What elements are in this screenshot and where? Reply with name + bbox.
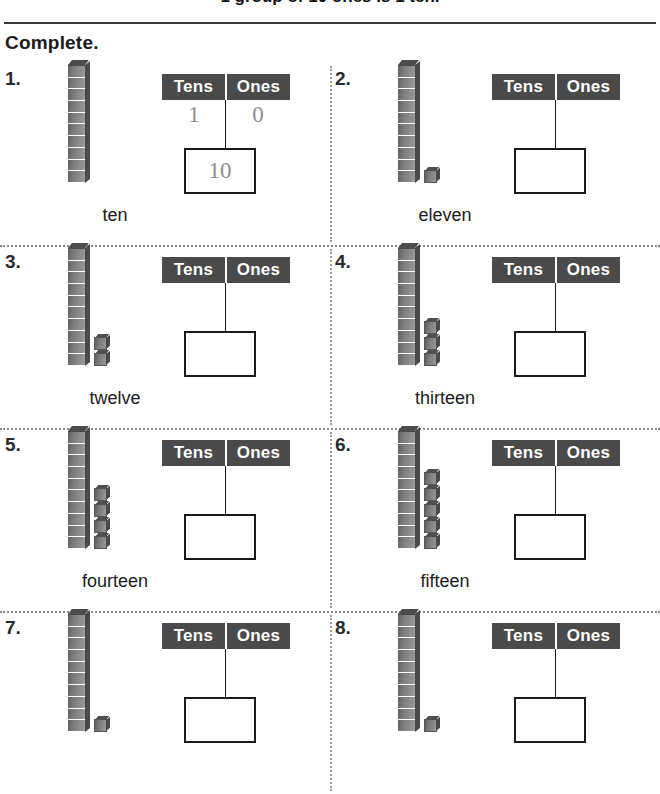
unit-cube-stack	[424, 321, 437, 366]
ones-header-label: Ones	[227, 257, 290, 283]
ten-rod-segment	[68, 627, 85, 639]
place-value-chart: TensOnes	[492, 623, 622, 649]
ten-rod-segment	[398, 101, 415, 113]
ten-rod-segment	[398, 627, 415, 639]
answer-box[interactable]: 10	[184, 148, 256, 194]
chart-column-divider	[225, 649, 226, 697]
place-value-chart: TensOnes	[492, 257, 622, 283]
ten-rod-segment	[68, 467, 85, 479]
unit-cube-stack	[424, 170, 437, 183]
ten-rod-segment	[398, 502, 415, 514]
ten-rod-segment	[68, 89, 85, 101]
unit-cube	[424, 504, 437, 517]
ten-rod	[68, 614, 85, 732]
digit-row: 10	[162, 102, 290, 128]
ten-rod-segment	[398, 650, 415, 662]
column-divider	[330, 615, 332, 791]
problem-number: 1.	[5, 68, 21, 90]
answer-box[interactable]	[184, 697, 256, 743]
ten-rod-segment	[68, 101, 85, 113]
ten-rod-side-face	[85, 61, 90, 183]
ten-rod-segment	[398, 78, 415, 90]
chart-header: TensOnes	[492, 440, 620, 466]
unit-cube	[94, 504, 107, 517]
place-value-chart: TensOnes	[162, 257, 292, 283]
problem-number: 5.	[5, 434, 21, 456]
ten-rod-segment	[398, 444, 415, 456]
answer-box[interactable]	[514, 697, 586, 743]
ten-rod-segment	[68, 354, 85, 366]
ten-rod-segment	[398, 526, 415, 538]
chart-column-divider	[225, 466, 226, 514]
ten-rod-segment	[398, 65, 415, 78]
answer-box[interactable]	[514, 331, 586, 377]
base-ten-blocks	[388, 619, 508, 754]
ten-rod-segment	[398, 685, 415, 697]
ten-rod-segment	[398, 248, 415, 261]
ten-rod-segment	[68, 261, 85, 273]
ten-rod-segment	[68, 455, 85, 467]
ten-rod-segment	[398, 272, 415, 284]
problem-number: 7.	[5, 617, 21, 639]
ten-rod-segment	[68, 160, 85, 172]
problem-row: 3.twelveTensOnes4.thirteenTensOnes	[0, 245, 660, 428]
chart-column-divider	[225, 283, 226, 331]
instruction-text: Complete.	[5, 32, 99, 54]
ten-rod-side-face	[85, 427, 90, 549]
problem-6: 6.fifteenTensOnes	[330, 428, 660, 611]
ones-digit-value[interactable]: 0	[226, 102, 290, 128]
problem-2: 2.elevenTensOnes	[330, 62, 660, 245]
ten-rod-segment	[398, 124, 415, 136]
ten-rod-segment	[68, 296, 85, 308]
unit-cube	[424, 337, 437, 350]
ones-header-label: Ones	[227, 440, 290, 466]
unit-cube	[424, 472, 437, 485]
chart-header: TensOnes	[492, 257, 620, 283]
problem-4: 4.thirteenTensOnes	[330, 245, 660, 428]
ones-header-label: Ones	[557, 440, 620, 466]
ones-header-label: Ones	[557, 257, 620, 283]
answer-box[interactable]	[184, 331, 256, 377]
ten-rod	[68, 431, 85, 549]
ten-rod-segment	[68, 685, 85, 697]
ten-rod-segment	[398, 431, 415, 444]
base-ten-blocks	[58, 436, 178, 571]
answer-box[interactable]	[514, 514, 586, 560]
unit-cube	[424, 353, 437, 366]
ten-rod-segment	[68, 272, 85, 284]
ten-rod-segment	[398, 261, 415, 273]
base-ten-blocks	[388, 436, 508, 571]
column-divider	[330, 66, 332, 242]
ten-rod	[398, 614, 415, 732]
ten-rod-segment	[68, 490, 85, 502]
ten-rod	[68, 248, 85, 366]
ten-rod-side-face	[415, 61, 420, 183]
ten-rod-segment	[68, 431, 85, 444]
unit-cube	[94, 536, 107, 549]
unit-cube	[94, 337, 107, 350]
ten-rod-segment	[398, 514, 415, 526]
tens-header-label: Tens	[162, 440, 225, 466]
ten-rod-segment	[68, 720, 85, 732]
ten-rod-segment	[398, 479, 415, 491]
ten-rod-segment	[398, 697, 415, 709]
ten-rod	[398, 431, 415, 549]
problem-grid: 1.tenTensOnes10102.elevenTensOnes3.twelv…	[0, 62, 660, 794]
tens-header-label: Tens	[162, 74, 225, 100]
ten-rod-segment	[398, 160, 415, 172]
ten-rod-segment	[68, 444, 85, 456]
chart-header: TensOnes	[492, 623, 620, 649]
problem-3: 3.twelveTensOnes	[0, 245, 330, 428]
ten-rod-segment	[68, 136, 85, 148]
chart-column-divider	[555, 283, 556, 331]
number-word-label: twelve	[30, 388, 200, 409]
unit-cube	[94, 488, 107, 501]
answer-box[interactable]	[184, 514, 256, 560]
answer-box[interactable]	[514, 148, 586, 194]
tens-header-label: Tens	[492, 623, 555, 649]
ten-rod-segment	[68, 124, 85, 136]
tens-digit-value[interactable]: 1	[162, 102, 226, 128]
ten-rod-segment	[398, 148, 415, 160]
ten-rod-segment	[68, 331, 85, 343]
number-word-label: fourteen	[30, 571, 200, 592]
